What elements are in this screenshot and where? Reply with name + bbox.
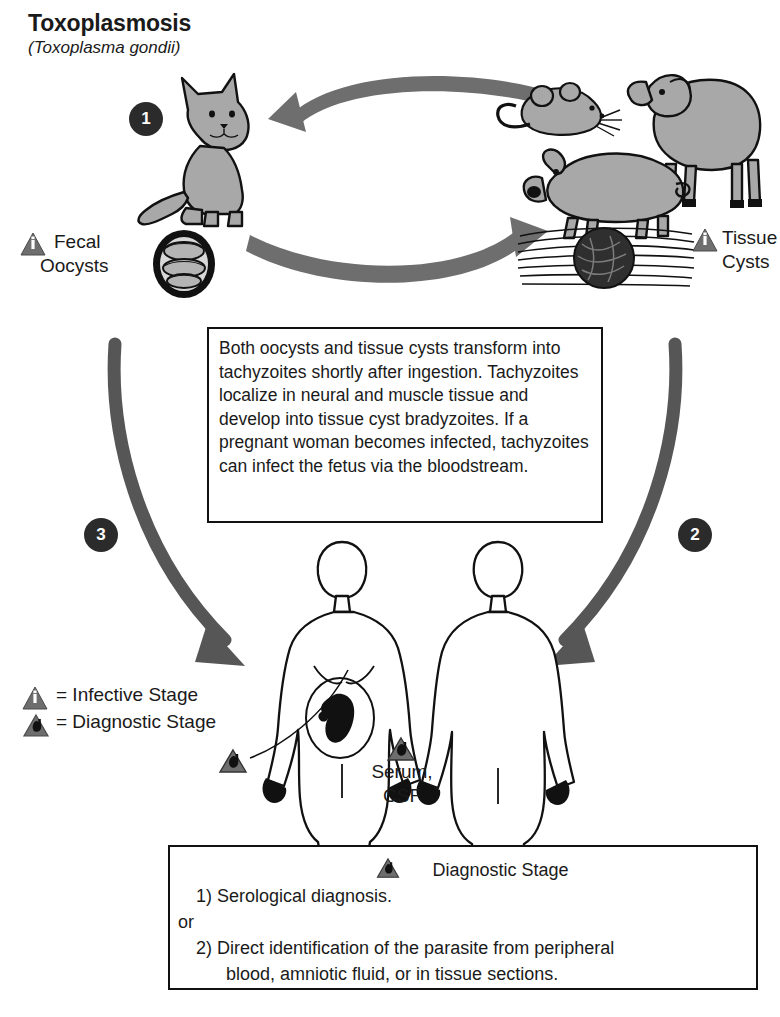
serum-csf-line2: CSF [362,784,442,808]
page-subtitle-scientific-name: (Toxoplasma gondii) [28,38,180,58]
legend-infective-icon [22,686,48,710]
diagnostic-stage-box: Diagnostic Stage 1) Serological diagnosi… [168,845,758,990]
amniotic-fluid-leader-line [232,660,362,770]
tissue-cysts-line2: Cysts [722,250,777,274]
oocyst-illustration [148,228,220,300]
legend-infective-label: = Infective Stage [56,684,198,706]
diagnostic-item-2: 2) Direct identification of the parasite… [196,935,744,961]
diagnostic-box-heading: Diagnostic Stage [432,860,568,880]
diagnostic-item-2-continuation: blood, amniotic fluid, or in tissue sect… [226,961,744,987]
stage-badge-2: 2 [678,518,712,552]
cycle-arrow-3-left [95,340,275,680]
infective-stage-icon-tissue [692,228,718,252]
tissue-cysts-label: Tissue Cysts [722,226,777,274]
diagnostic-box-heading-row: Diagnostic Stage [200,857,744,881]
fecal-oocysts-line1: Fecal [54,230,109,254]
tissue-cyst-illustration [516,222,696,294]
fecal-oocysts-line2: Oocysts [40,254,109,278]
diagnostic-stage-icon-serum [386,736,416,762]
diagnostic-stage-icon-amniotic [218,748,248,774]
diagnostic-connector: or [178,909,744,935]
diagnostic-item-1: 1) Serological diagnosis. [196,883,744,909]
serum-csf-line1: Serum, [362,760,442,784]
serum-csf-label: Serum, CSF [362,760,442,808]
stage-badge-3: 3 [84,518,118,552]
diagnostic-stage-icon-box [375,857,401,879]
infective-stage-icon [20,232,46,256]
tissue-cysts-line1: Tissue [722,226,777,250]
legend-diagnostic-icon [22,713,50,738]
cat-illustration [130,70,280,230]
page-title: Toxoplasmosis [28,10,191,37]
fecal-oocysts-label: Fecal Oocysts [54,230,109,278]
legend-diagnostic-label: = Diagnostic Stage [56,711,216,733]
